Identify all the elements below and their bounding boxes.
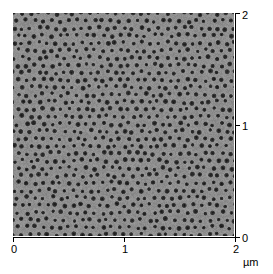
y-axis-tick-0: [236, 237, 240, 238]
afm-figure: 0 1 2 0 1 2 µm: [0, 0, 273, 274]
x-axis-tick-0: [13, 238, 14, 242]
afm-scan-image: [13, 13, 234, 236]
y-axis-tick-label-1: 1: [242, 121, 248, 132]
y-axis-tick-label-0: 0: [242, 233, 248, 244]
y-axis-tick-1: [236, 125, 240, 126]
x-axis-tick-label-2: 2: [233, 244, 239, 255]
axis-unit-label: µm: [243, 257, 259, 268]
x-axis-tick-2: [235, 238, 236, 242]
x-axis-tick-label-0: 0: [11, 244, 17, 255]
y-axis-tick-2: [236, 13, 240, 14]
x-axis-tick-1: [124, 238, 125, 242]
nanoporous-surface-canvas: [13, 13, 234, 236]
x-axis-tick-label-1: 1: [122, 244, 128, 255]
y-axis-tick-label-2: 2: [242, 10, 248, 21]
